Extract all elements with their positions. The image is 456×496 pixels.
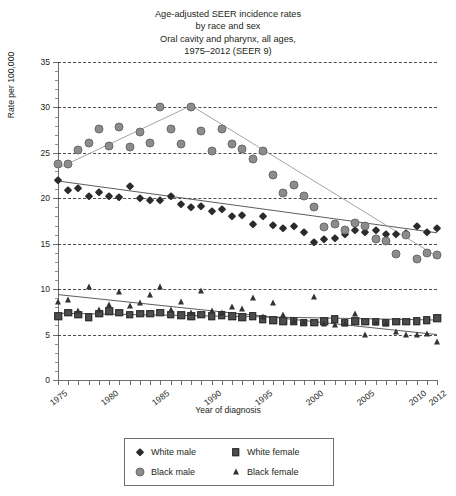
- data-point: [188, 309, 194, 315]
- x-tick: [294, 381, 295, 385]
- data-point: [393, 328, 399, 334]
- y-axis-title: Rate per 100,000: [6, 20, 16, 150]
- chart-title-line-1: Age-adjusted SEER incidence rates: [0, 8, 456, 20]
- y-tick-label: 25: [40, 148, 50, 158]
- data-point: [166, 125, 175, 134]
- x-tick: [160, 381, 161, 385]
- x-tick-label: 1975: [48, 388, 69, 408]
- legend-marker-glyph: [135, 468, 144, 477]
- legend-label: Black male: [151, 467, 195, 477]
- y-tick-label: 0: [45, 375, 50, 385]
- data-point: [351, 218, 360, 227]
- x-tick: [119, 381, 120, 385]
- data-point: [168, 306, 174, 312]
- legend-item-black-male[interactable]: Black male: [135, 467, 231, 477]
- trend-lines: [58, 62, 437, 380]
- chart-title-line-3: Oral cavity and pharynx, all ages,: [0, 33, 456, 45]
- legend-label: White female: [247, 447, 300, 457]
- data-point: [96, 306, 102, 312]
- x-tick: [89, 381, 90, 385]
- legend-marker-glyph: [232, 448, 240, 456]
- data-point: [310, 203, 319, 212]
- legend-label: White male: [151, 447, 196, 457]
- data-point: [115, 123, 124, 132]
- x-tick: [191, 381, 192, 385]
- data-point: [178, 298, 184, 304]
- chart-title-line-4: 1975–2012 (SEER 9): [0, 45, 456, 57]
- x-tick-label: 2005: [355, 388, 376, 408]
- data-point: [198, 311, 206, 319]
- x-tick: [273, 381, 274, 385]
- x-tick-label: 1995: [253, 388, 274, 408]
- x-tick: [201, 381, 202, 385]
- data-point: [381, 236, 390, 245]
- data-point: [299, 191, 308, 200]
- data-point: [332, 322, 338, 328]
- data-point: [64, 309, 72, 317]
- data-point: [86, 284, 92, 290]
- data-point: [94, 125, 103, 134]
- data-point: [116, 309, 124, 317]
- data-point: [238, 145, 247, 154]
- data-point: [342, 320, 348, 326]
- legend-item-white-female[interactable]: White female: [231, 447, 327, 457]
- x-tick: [345, 381, 346, 385]
- data-point: [412, 255, 421, 264]
- data-point: [340, 226, 349, 235]
- x-tick: [212, 381, 213, 385]
- data-point: [135, 127, 144, 136]
- y-tick-label: 30: [40, 102, 50, 112]
- data-point: [125, 143, 134, 152]
- data-point: [55, 298, 61, 304]
- data-point: [321, 320, 327, 326]
- data-point: [434, 338, 440, 344]
- data-point: [392, 249, 401, 258]
- data-point: [403, 332, 409, 338]
- x-tick: [58, 381, 59, 385]
- data-point: [422, 248, 431, 257]
- legend-item-white-male[interactable]: White male: [135, 447, 231, 457]
- data-point: [320, 223, 329, 232]
- data-point: [146, 138, 155, 147]
- x-tick: [181, 381, 182, 385]
- x-tick: [427, 381, 428, 385]
- y-tick-label: 35: [40, 57, 50, 67]
- data-point: [289, 180, 298, 189]
- chart-figure: Age-adjusted SEER incidence rates by rac…: [0, 0, 456, 496]
- data-point: [352, 310, 358, 316]
- data-point: [423, 316, 431, 324]
- x-tick: [130, 381, 131, 385]
- data-point: [239, 306, 245, 312]
- data-point: [198, 287, 204, 293]
- data-point: [362, 318, 370, 326]
- data-point: [176, 139, 185, 148]
- data-point: [197, 127, 206, 136]
- x-tick: [109, 381, 110, 385]
- data-point: [209, 307, 215, 313]
- data-point: [147, 291, 153, 297]
- legend-item-black-female[interactable]: Black female: [231, 467, 327, 477]
- x-axis-ticks: 197519801985199019952000200520102012: [58, 381, 438, 415]
- data-point: [74, 146, 83, 155]
- x-tick: [242, 381, 243, 385]
- x-tick-label: 1980: [99, 388, 120, 408]
- data-point: [248, 155, 257, 164]
- data-point: [137, 299, 143, 305]
- data-point: [260, 314, 266, 320]
- data-point: [258, 147, 267, 156]
- x-tick-label: 1990: [202, 388, 223, 408]
- x-tick: [314, 381, 315, 385]
- data-point: [392, 318, 400, 326]
- x-tick: [365, 381, 366, 385]
- chart-legend: White maleWhite femaleBlack maleBlack fe…: [124, 438, 334, 486]
- data-point: [402, 230, 411, 239]
- data-point: [217, 125, 226, 134]
- data-point: [156, 103, 165, 112]
- x-tick: [78, 381, 79, 385]
- data-point: [85, 314, 93, 322]
- data-point: [373, 319, 379, 325]
- data-point: [269, 316, 277, 324]
- data-point: [280, 311, 286, 317]
- x-tick-label: 2000: [304, 388, 325, 408]
- data-point: [383, 320, 389, 326]
